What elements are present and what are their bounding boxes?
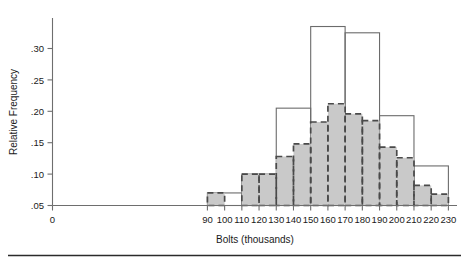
y-axis-ticks: .05.10.15.20.25.30 bbox=[31, 43, 53, 211]
narrow-bin-bar-fill bbox=[380, 147, 397, 205]
narrow-bin-bar-fill bbox=[242, 174, 259, 205]
x-axis-ticks: 0901001101201301401501601701801902002102… bbox=[50, 206, 456, 226]
y-tick-label: .30 bbox=[31, 43, 44, 54]
narrow-bin-bar-fill bbox=[397, 158, 414, 206]
x-tick-label: 100 bbox=[217, 214, 233, 225]
y-tick-label: .10 bbox=[31, 169, 44, 180]
x-tick-label: 190 bbox=[372, 214, 388, 225]
x-tick-label: 110 bbox=[234, 214, 249, 225]
x-tick-label: 0 bbox=[50, 214, 55, 225]
narrow-bin-bar-fill bbox=[207, 193, 224, 206]
narrow-bin-bar-fill bbox=[414, 185, 431, 205]
narrow-bin-bar-fill bbox=[431, 194, 448, 205]
narrow-bin-bar-fill bbox=[345, 114, 362, 206]
x-tick-label: 230 bbox=[440, 214, 456, 225]
narrow-bin-bar-fill bbox=[276, 157, 293, 206]
histogram-figure: .05.10.15.20.25.30 090100110120130140150… bbox=[0, 0, 469, 262]
x-tick-label: 160 bbox=[320, 214, 336, 225]
histogram-chart: .05.10.15.20.25.30 090100110120130140150… bbox=[0, 0, 469, 262]
x-tick-label: 150 bbox=[303, 214, 319, 225]
narrow-bin-bar-fill bbox=[293, 144, 310, 206]
x-tick-label: 210 bbox=[406, 214, 422, 225]
x-tick-label: 200 bbox=[389, 214, 405, 225]
y-tick-label: .15 bbox=[31, 137, 44, 148]
narrow-bin-bar-fill bbox=[328, 104, 345, 206]
x-tick-label: 120 bbox=[251, 214, 267, 225]
x-axis-title: Bolts (thousands) bbox=[216, 234, 294, 245]
narrow-bin-bar-fill bbox=[362, 121, 379, 206]
y-tick-label: .05 bbox=[31, 200, 44, 211]
narrow-bin-bar-fill bbox=[259, 174, 276, 205]
x-tick-label: 220 bbox=[423, 214, 439, 225]
narrow-bin-bar-fill bbox=[311, 122, 328, 206]
y-tick-label: .20 bbox=[31, 106, 44, 117]
y-tick-label: .25 bbox=[31, 75, 44, 86]
x-tick-label: 90 bbox=[202, 214, 213, 225]
x-tick-label: 170 bbox=[337, 214, 353, 225]
x-tick-label: 180 bbox=[354, 214, 370, 225]
x-tick-label: 140 bbox=[286, 214, 302, 225]
x-tick-label: 130 bbox=[268, 214, 284, 225]
y-axis-title: Relative Frequency bbox=[8, 69, 19, 155]
